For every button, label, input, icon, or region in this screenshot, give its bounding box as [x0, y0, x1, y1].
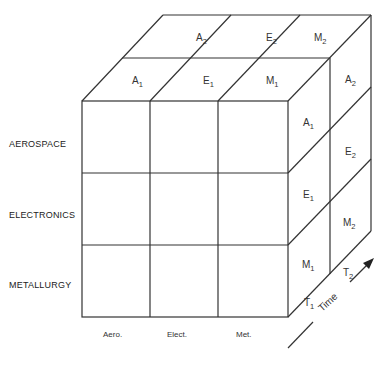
time-tick-label: T2: [343, 267, 353, 281]
side-back-cell-label: M2: [343, 217, 356, 231]
top-face-labels: A2 E2 M2 A1 E1 M1: [132, 32, 327, 89]
row-label: AEROSPACE: [9, 139, 66, 149]
top-front-cell-label: E1: [203, 75, 214, 89]
time-tick-label: T1: [304, 297, 314, 311]
side-front-cell-label: M1: [302, 259, 315, 273]
top-back-cell-label: M2: [314, 32, 327, 46]
side-front-cell-label: E1: [303, 189, 314, 203]
column-label: Aero.: [103, 330, 122, 339]
front-face-outline: [82, 101, 288, 317]
row-label: METALLURGY: [9, 280, 71, 290]
top-face: [82, 15, 371, 101]
column-label: Elect.: [167, 330, 187, 339]
column-label: Met.: [236, 330, 252, 339]
cube-diagram: Time A2 E2 M2 A1 E1 M1 A1 E1 M1 A2 E2 M2…: [0, 0, 390, 366]
time-axis-label: Time: [316, 290, 340, 313]
column-labels: Aero. Elect. Met.: [103, 330, 252, 339]
top-back-cell-label: E2: [266, 32, 277, 46]
top-front-cell-label: M1: [266, 75, 279, 89]
side-front-cell-label: A1: [303, 117, 314, 131]
side-face: [288, 15, 371, 317]
front-face: [82, 101, 288, 317]
top-back-cell-label: A2: [196, 32, 207, 46]
row-labels: AEROSPACE ELECTRONICS METALLURGY: [9, 139, 75, 290]
side-back-cell-label: E2: [345, 146, 356, 160]
time-axis-tail-line: [288, 322, 313, 348]
row-label: ELECTRONICS: [9, 210, 75, 220]
top-front-cell-label: A1: [132, 75, 143, 89]
side-back-cell-label: A2: [345, 74, 356, 88]
